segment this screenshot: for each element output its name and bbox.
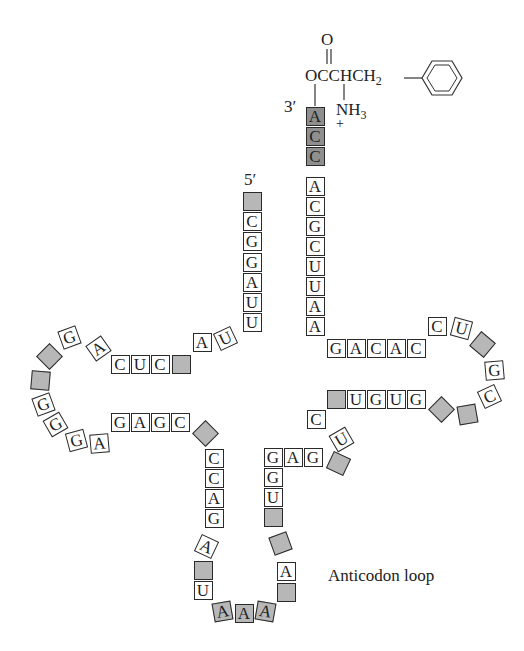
anticodon-loop-label: Anticodon loop	[328, 566, 434, 586]
nucleotide-c: C	[367, 339, 386, 358]
nucleotide-a: A	[85, 335, 111, 361]
nucleotide-a: A	[235, 604, 254, 623]
modified-nucleotide	[243, 192, 262, 211]
nucleotide-g: G	[243, 253, 262, 272]
nucleotide-a: A	[387, 339, 406, 358]
modified-nucleotide	[428, 396, 455, 423]
nucleotide-c: C	[476, 383, 501, 408]
nucleotide-a: A	[306, 317, 325, 336]
nucleotide-g: G	[327, 339, 346, 358]
modified-nucleotide	[469, 331, 496, 358]
nucleotide-u: U	[328, 426, 354, 452]
modified-nucleotide	[268, 531, 292, 555]
nucleotide-c: C	[306, 127, 325, 146]
benzene-ring-icon	[422, 61, 462, 95]
nucleotide-u: U	[449, 316, 472, 339]
nucleotide-c: C	[306, 147, 325, 166]
nucleotide-c: C	[306, 197, 325, 216]
nucleotide-g: G	[57, 325, 81, 349]
nucleotide-g: G	[111, 413, 130, 432]
nucleotide-a: A	[306, 107, 325, 126]
nucleotide-u: U	[243, 313, 262, 332]
nucleotide-a: A	[284, 448, 303, 467]
modified-nucleotide	[192, 420, 219, 447]
modified-nucleotide	[30, 370, 51, 391]
nucleotide-g: G	[306, 217, 325, 236]
carbonyl-oxygen: O	[321, 30, 333, 50]
modified-nucleotide	[327, 390, 346, 409]
nucleotide-a: A	[193, 533, 218, 558]
nucleotide-c: C	[407, 339, 426, 358]
nucleotide-a: A	[205, 489, 224, 508]
nucleotide-u: U	[264, 488, 283, 507]
three-prime-label: 3′	[284, 97, 296, 117]
nucleotide-g: G	[484, 360, 505, 381]
nucleotide-a: A	[306, 177, 325, 196]
nucleotide-u: U	[131, 355, 150, 374]
nucleotide-g: G	[367, 390, 386, 409]
nucleotide-a: A	[306, 297, 325, 316]
nucleotide-u: U	[212, 325, 237, 350]
nucleotide-u: U	[347, 390, 366, 409]
nucleotide-c: C	[306, 237, 325, 256]
nucleotide-a: A	[254, 600, 276, 622]
nucleotide-g: G	[264, 468, 283, 487]
nucleotide-g: G	[264, 448, 283, 467]
ester-chain: OCCHCH2	[305, 66, 382, 89]
nucleotide-g: G	[243, 232, 262, 251]
five-prime-label: 5′	[244, 170, 256, 190]
modified-nucleotide	[36, 343, 63, 370]
nucleotide-c: C	[205, 449, 224, 468]
nucleotide-a: A	[131, 413, 150, 432]
nucleotide-c: C	[171, 413, 190, 432]
nucleotide-u: U	[306, 257, 325, 276]
modified-nucleotide	[172, 355, 191, 374]
nucleotide-a: A	[277, 562, 296, 581]
nucleotide-c: C	[205, 469, 224, 488]
modified-nucleotide	[264, 508, 283, 527]
amino-charge: +	[336, 116, 344, 132]
nucleotide-c: C	[151, 355, 170, 374]
nucleotide-a: A	[347, 339, 366, 358]
nucleotide-u: U	[243, 293, 262, 312]
nucleotide-a: A	[243, 273, 262, 292]
modified-nucleotide	[325, 450, 350, 475]
nucleotide-a: A	[193, 333, 212, 352]
nucleotide-g: G	[151, 413, 170, 432]
nucleotide-g: G	[304, 448, 323, 467]
modified-nucleotide	[194, 561, 213, 580]
nucleotide-c: C	[243, 212, 262, 231]
nucleotide-u: U	[387, 390, 406, 409]
trna-diagram: O OCCHCH2 NH3 + 3′ 5′ Anticodon loop CGG…	[0, 0, 524, 651]
nucleotide-a: A	[211, 600, 233, 622]
nucleotide-a: A	[89, 433, 110, 454]
nucleotide-u: U	[306, 277, 325, 296]
nucleotide-g: G	[205, 509, 224, 528]
nucleotide-u: U	[194, 581, 213, 600]
modified-nucleotide	[456, 403, 478, 425]
nucleotide-c: C	[428, 317, 447, 336]
nucleotide-g: G	[31, 392, 55, 416]
nucleotide-c: C	[111, 355, 130, 374]
nucleotide-g: G	[64, 428, 87, 451]
nucleotide-g: G	[407, 390, 426, 409]
modified-nucleotide	[277, 583, 296, 602]
nucleotide-c: C	[307, 410, 326, 429]
